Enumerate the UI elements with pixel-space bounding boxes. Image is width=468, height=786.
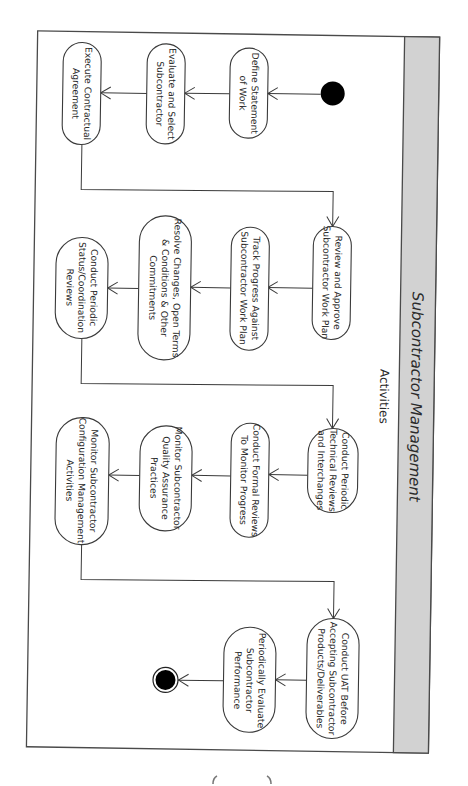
node-label: Reviews xyxy=(64,269,76,307)
action-define-statement-of-work[interactable]: Define Statement of Work xyxy=(229,48,268,139)
node-label: & Conditions & Other xyxy=(159,239,172,337)
node-label: Resolve Changes, Open Terms xyxy=(171,219,184,358)
node-label: Commitments xyxy=(147,255,159,320)
node-label: Define Statement xyxy=(249,53,261,135)
node-label: Conduct Periodic xyxy=(339,432,351,510)
node-label: Subcontractor Work Plan xyxy=(320,225,333,339)
node-label: Quality Assurance xyxy=(160,436,172,520)
edge-n5-n6 xyxy=(191,287,231,288)
action-review-approve-work-plan[interactable]: Review and Approve Subcontractor Work Pl… xyxy=(312,225,352,339)
node-label: Activities xyxy=(64,459,76,501)
node-label: Monitor Subcontractor xyxy=(88,429,101,532)
edge-n13-end xyxy=(178,680,223,681)
node-label: Conduct Periodic xyxy=(88,249,100,327)
node-label: Evaluate and Select xyxy=(166,48,178,140)
action-resolve-changes[interactable]: Resolve Changes, Open Terms & Conditions… xyxy=(138,215,192,360)
final-node-icon xyxy=(153,667,178,692)
edge-n1-n2 xyxy=(185,93,230,94)
node-label: Review and Approve xyxy=(332,235,344,330)
node-label: Accepting Subcontractor xyxy=(327,622,340,736)
node-label: Configuration Management xyxy=(76,418,89,544)
node-label: Subcontractor xyxy=(154,61,166,126)
edge-n8-n9 xyxy=(269,475,308,476)
node-label: Track Progress Against xyxy=(250,235,263,340)
action-conduct-uat[interactable]: Conduct UAT Before Accepting Subcontract… xyxy=(306,618,360,739)
node-label: Status/Coordination xyxy=(76,242,88,333)
edge-n4-n5 xyxy=(268,287,313,288)
node-label: and Interchanges xyxy=(315,430,327,511)
action-execute-contractual-agreement[interactable]: Execute Contractual Agreement xyxy=(62,42,102,145)
node-label: To Monitor Progress xyxy=(238,434,250,525)
node-label: Subcontractor xyxy=(244,648,256,713)
action-evaluate-select-subcontractor[interactable]: Evaluate and Select Subcontractor xyxy=(146,44,186,145)
node-label: Subcontractor Work Plan xyxy=(238,231,251,345)
action-conduct-status-reviews[interactable]: Conduct Periodic Status/Coordination Rev… xyxy=(55,237,109,339)
node-label: of Work xyxy=(237,75,249,111)
node-label: Products/Deliverables xyxy=(315,628,328,728)
action-periodically-evaluate-performance[interactable]: Periodically Evaluate Subcontractor Perf… xyxy=(223,627,277,733)
node-label: Agreement xyxy=(70,68,82,120)
node-label: Practices xyxy=(148,457,160,499)
page-mark-icon xyxy=(267,776,271,784)
edge-n9-n10 xyxy=(192,475,231,476)
action-monitor-configuration-management[interactable]: Monitor Subcontractor Configuration Mana… xyxy=(55,417,110,545)
node-label: Performance xyxy=(232,651,244,710)
node-label: Conduct Formal Reviews xyxy=(250,424,263,537)
activity-diagram: Subcontractor Management Activities xyxy=(0,0,468,786)
action-monitor-quality-assurance[interactable]: Monitor Subcontractor Quality Assurance … xyxy=(139,426,193,532)
diagram-title: Subcontractor Management xyxy=(405,292,426,503)
action-track-progress[interactable]: Track Progress Against Subcontractor Wor… xyxy=(230,227,270,351)
page-mark-icon xyxy=(213,776,217,784)
node-label: Execute Contractual xyxy=(82,47,94,140)
node-label: Monitor Subcontractor xyxy=(172,427,185,530)
node-label: Technical Reviews xyxy=(327,428,339,512)
lane-label-activities: Activities xyxy=(377,369,392,424)
node-label: Periodically Evaluate xyxy=(256,633,269,729)
action-conduct-technical-reviews[interactable]: Conduct Periodic Technical Reviews and I… xyxy=(307,428,358,513)
action-conduct-formal-reviews[interactable]: Conduct Formal Reviews To Monitor Progre… xyxy=(230,423,270,538)
node-label: Conduct UAT Before xyxy=(339,633,351,725)
